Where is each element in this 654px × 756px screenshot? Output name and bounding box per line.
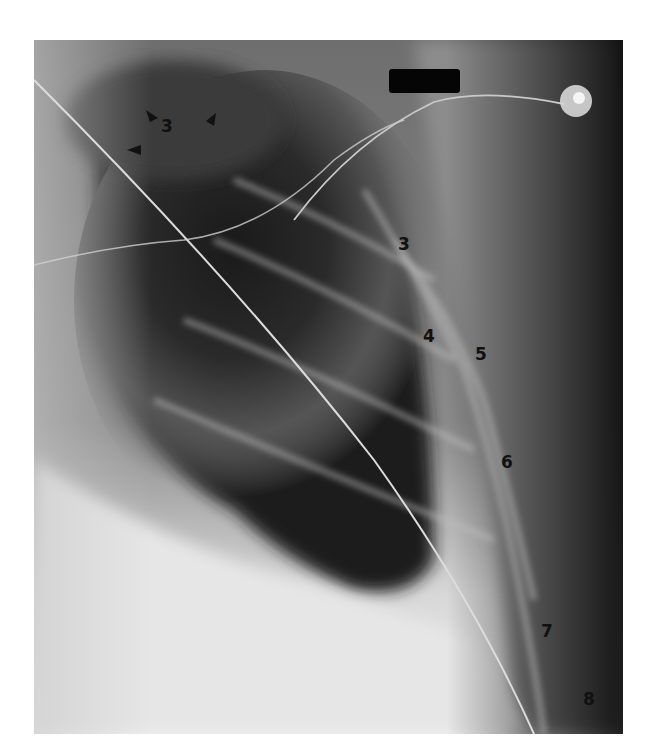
- rib-label-8: 8: [583, 691, 595, 708]
- radiograph-shading: [34, 40, 623, 734]
- rib-label-3: 3: [398, 236, 410, 253]
- rib-label-6: 6: [501, 454, 513, 471]
- rib-label-5: 5: [475, 346, 487, 363]
- rib-label-7: 7: [541, 623, 553, 640]
- redaction-bar: [389, 69, 460, 93]
- rib-label-3-apex: 3: [161, 118, 173, 135]
- chest-radiograph: [34, 40, 623, 734]
- rib-label-4: 4: [423, 328, 435, 345]
